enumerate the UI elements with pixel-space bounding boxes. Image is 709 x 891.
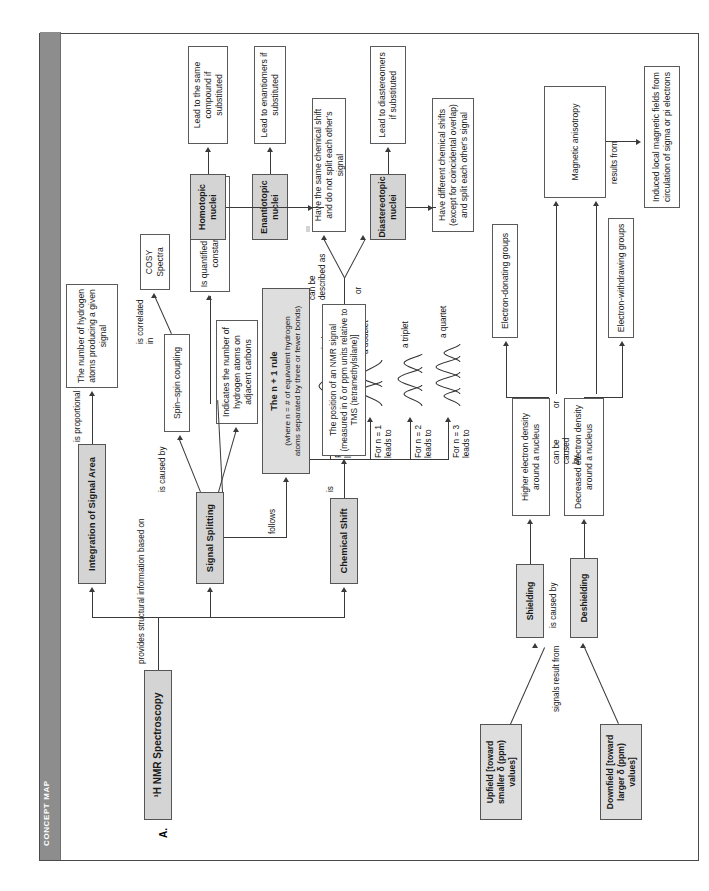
arrowhead [321,235,327,240]
node-diastereotopic-result: Lead to diastereomers if substituted [370,46,406,144]
n-plus-1-subtitle: (where n = # of equivalent hydrogen atom… [283,306,303,456]
arrowhead [385,147,391,152]
arrowhead [593,201,599,206]
arrowhead [367,417,373,422]
rotated-canvas: CONCEPT MAP A. ¹H NMR Spectroscopy provi… [39,33,699,861]
arrowhead [233,427,239,432]
n-plus-1-title: The n + 1 rule [269,351,281,410]
node-diastereotopic-nuclei: Diastereotopic nuclei [370,174,406,240]
arrowhead [308,205,313,211]
connector [154,295,172,334]
concept-map-label: CONCEPT MAP [42,780,51,846]
connector [344,278,345,304]
arrowhead [341,587,347,592]
multiplet-name-3: a quartet [439,282,449,338]
connector [622,346,623,398]
connector [556,204,557,394]
root-link-label: provides structural information based on [137,474,147,664]
node-same-chemical-shift: Have the same chemical shift and do not … [312,98,346,232]
connector [158,618,159,670]
connector [506,346,507,398]
connector [286,482,287,538]
connector [178,438,201,492]
chemical-shift-is-label: is [326,470,336,492]
node-integration: Integration of Signal Area [78,444,106,584]
node-homotopic-result: Lead to the same compound if substituted [188,46,228,144]
peak-glyph-triplet [396,352,424,408]
arrowhead [360,235,366,240]
or-label-1: or [354,272,364,294]
connector [208,152,209,174]
node-chemical-shift: Chemical Shift [330,498,358,584]
connector [584,647,619,724]
node-induced-local-fields: Induced local magnetic fields from circu… [644,66,680,208]
connector [92,617,344,618]
connector [270,152,271,174]
connector [530,524,531,564]
node-signal-splitting: Signal Splitting [196,492,224,584]
node-electron-withdrawing-groups: Electron-withdrawing groups [608,218,634,338]
node-n-plus-1-rule: The n + 1 rule (where n = # of equivalen… [262,288,310,474]
node-integration-result: The number of hydrogen atoms producing a… [66,284,118,388]
root-title-box: ¹H NMR Spectroscopy [144,670,172,820]
node-magnetic-anisotropy: Magnetic anisotropy [544,86,606,198]
multiplet-condition-3: For n = 3 leads to [452,404,472,458]
arrowhead [503,341,509,346]
arrowhead [532,643,538,648]
connector [410,422,411,460]
node-homotopic-nuclei: Homotopic nuclei [190,174,226,240]
connector [92,592,93,618]
node-deshielding: Deshielding [570,558,598,638]
is-caused-by-label-2: is caused by [549,542,559,628]
arrowhead [267,147,273,152]
connector [510,647,545,724]
node-different-chemical-shift: Have different chemical shifts (except f… [432,98,474,232]
node-spin-spin-coupling: Spin–spin coupling [164,334,190,432]
or-label-2: or [552,388,562,408]
node-enantiotopic-result: Lead to enantiomers if substituted [254,46,286,144]
connector [344,592,345,618]
arrowhead [341,459,347,464]
arrowhead [445,417,451,422]
node-higher-electron-density: Higher electron density around a nucleus [512,398,550,516]
connector [92,396,93,444]
node-downfield: Downfield [toward larger δ (ppm) values] [600,724,642,820]
multiplet-name-2: a triplet [401,292,411,348]
node-upfield: Upfield [toward smaller δ (ppm) values] [480,724,522,820]
arrowhead [636,139,641,145]
arrowhead [89,391,95,396]
arrowhead [619,341,625,346]
concept-map-page: CONCEPT MAP A. ¹H NMR Spectroscopy provi… [0,0,709,891]
connector [288,207,324,208]
connector [584,524,585,558]
node-cosy-spectra: COSY Spectra [140,234,170,290]
arrowhead [581,519,587,524]
follows-label: follows [268,484,278,534]
arrowhead [207,587,213,592]
arrowhead [580,643,586,648]
multiplet-condition-2: For n = 2 leads to [414,404,434,458]
node-indicates-hydrogens: Indicates the number of hydrogen atoms o… [216,320,258,424]
can-be-caused-by-label: can be caused by [552,408,582,464]
connector [210,592,211,618]
concept-map-sheet: CONCEPT MAP A. ¹H NMR Spectroscopy provi… [39,33,699,861]
arrowhead [283,477,289,482]
node-electron-donating-groups: Electron-donating groups [492,224,518,338]
arrowhead [206,295,212,300]
connector [344,464,345,498]
results-from-label: results from [610,94,620,184]
node-chemical-shift-definition: The position of an NMR signal (measured … [322,304,366,456]
connector [370,422,371,460]
spine-band: CONCEPT MAP [40,32,61,860]
node-shielding: Shielding [516,564,544,638]
arrowhead [553,201,559,206]
arrowhead [89,587,95,592]
arrowhead [527,519,533,524]
spacer [306,226,310,232]
described-as-label: can be described as [308,242,328,300]
arrowhead [205,147,211,152]
connector [584,397,622,398]
connector [448,422,449,460]
connector [506,397,532,398]
connector [388,152,389,174]
